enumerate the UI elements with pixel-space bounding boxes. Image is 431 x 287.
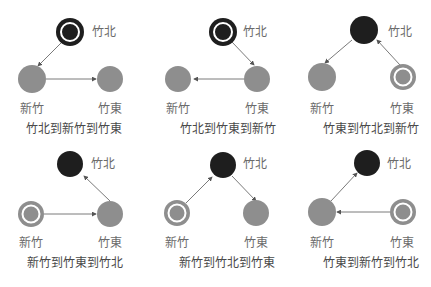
edge-zhubei-zhudong: [232, 42, 254, 65]
edge-zhubei-zhudong: [232, 176, 256, 201]
node-hsinchu-icon: [308, 63, 336, 91]
caption-4: 新竹到竹東到竹北: [27, 255, 123, 270]
caption-6: 竹東到新竹到竹北: [323, 255, 419, 270]
label-zhubei: 竹北: [91, 157, 115, 171]
edge-hsinchu-zhubei: [331, 173, 357, 201]
panel-2: 竹北 新竹 竹東 竹北到竹東到新竹: [165, 18, 276, 136]
label-zhubei: 竹北: [243, 157, 267, 171]
label-zhubei: 竹北: [387, 157, 411, 171]
node-zhudong-icon: [243, 200, 269, 226]
panel-4: 竹北 新竹 竹東 新竹到竹東到竹北: [18, 151, 123, 270]
caption-5: 新竹到竹北到竹東: [179, 255, 275, 270]
node-hsinchu-icon: [18, 65, 46, 93]
label-hsinchu: 新竹: [19, 235, 43, 250]
edge-zhudong-zhubei: [84, 176, 110, 201]
label-hsinchu: 新竹: [20, 101, 44, 116]
label-zhudong: 竹東: [98, 102, 122, 116]
caption-3: 竹東到竹北到新竹: [323, 121, 419, 136]
caption-2: 竹北到竹東到新竹: [180, 121, 276, 136]
label-hsinchu: 新竹: [166, 101, 190, 116]
label-zhudong: 竹東: [244, 236, 268, 250]
label-zhudong: 竹東: [390, 102, 414, 116]
label-zhubei: 竹北: [388, 25, 412, 39]
edge-hsinchu-zhubei: [186, 177, 212, 203]
label-hsinchu: 新竹: [165, 235, 189, 250]
node-hsinchu-icon: [165, 66, 191, 92]
panel-6: 竹北 新竹 竹東 竹東到新竹到竹北: [308, 150, 419, 270]
label-hsinchu: 新竹: [310, 235, 334, 250]
label-zhudong: 竹東: [98, 236, 122, 250]
edge-zhubei-hsinchu: [38, 42, 62, 66]
panel-3: 竹北 新竹 竹東 竹東到竹北到新竹: [308, 16, 419, 136]
node-zhubei-icon: [57, 151, 83, 177]
node-zhudong-icon: [97, 201, 123, 227]
route-diagram: 竹北 新竹 竹東 竹北到新竹到竹東 竹北 新竹 竹東 竹北到竹東到新竹 竹北 新…: [0, 0, 431, 287]
panel-5: 竹北 新竹 竹東 新竹到竹北到竹東: [164, 152, 275, 270]
panel-1: 竹北 新竹 竹東 竹北到新竹到竹東: [18, 18, 123, 136]
node-zhubei-icon: [354, 150, 380, 176]
label-zhudong: 竹東: [245, 102, 269, 116]
caption-1: 竹北到新竹到竹東: [26, 121, 122, 136]
label-zhudong: 竹東: [390, 236, 414, 250]
node-zhubei-icon: [350, 16, 378, 44]
node-zhudong-icon: [244, 66, 270, 92]
edge-zhubei-hsinchu: [325, 40, 352, 63]
label-zhubei: 竹北: [92, 25, 116, 39]
node-zhubei-icon: [210, 152, 236, 178]
node-zhudong-icon: [97, 66, 123, 92]
label-hsinchu: 新竹: [310, 101, 334, 116]
node-hsinchu-icon: [308, 198, 336, 226]
edge-zhudong-zhubei: [377, 40, 400, 65]
label-zhubei: 竹北: [243, 25, 267, 39]
